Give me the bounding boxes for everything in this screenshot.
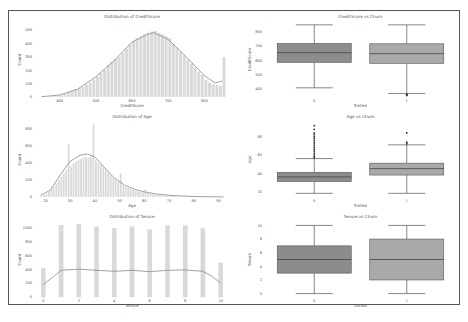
histogram-bar <box>139 36 142 97</box>
y-tick-label: 200 <box>25 69 33 73</box>
x-tick-label: 1 <box>406 199 408 203</box>
x-tick-label: 20 <box>43 199 48 203</box>
histogram-bar <box>181 196 183 197</box>
x-tick-label: 50 <box>117 199 122 203</box>
outlier-point <box>313 134 315 136</box>
histogram-bar <box>148 230 152 297</box>
histogram-bar <box>59 225 63 297</box>
histogram-bar <box>121 53 124 97</box>
histogram-bar <box>136 38 139 97</box>
histogram-bar <box>94 227 98 297</box>
box-iqr <box>370 163 444 175</box>
histogram-bar <box>85 84 88 97</box>
histogram-bar <box>117 182 119 197</box>
histogram-bar <box>68 144 70 197</box>
histogram-bar <box>154 194 156 197</box>
histogram-bar <box>74 90 77 97</box>
histogram-bar <box>197 72 200 97</box>
y-tick-label: 200 <box>25 178 33 182</box>
histogram-bar <box>127 188 129 197</box>
histogram-bar <box>52 96 55 97</box>
histogram-bar <box>45 194 47 197</box>
histogram-bar <box>85 157 87 197</box>
histogram-bar <box>150 31 153 97</box>
histogram-bar <box>144 189 146 197</box>
histogram-bar <box>75 161 77 197</box>
x-tick-label: 600 <box>129 99 137 103</box>
histogram-bar <box>167 195 169 197</box>
histogram-bar <box>81 87 84 97</box>
y-tick-label: 80 <box>257 135 262 139</box>
histogram-bar <box>125 49 128 97</box>
y-tick-label: 600 <box>255 59 263 63</box>
histogram-bar <box>219 263 223 297</box>
histogram-bar <box>110 175 112 197</box>
x-axis-label: Exited <box>354 203 367 208</box>
histogram-bar <box>73 163 75 197</box>
y-tick-label: 400 <box>25 268 33 272</box>
y-axis-label: Count <box>17 253 22 265</box>
histogram-bar <box>89 82 92 97</box>
histogram-bar <box>83 158 85 197</box>
x-axis-label: Exited <box>354 103 367 108</box>
histogram-bar <box>105 170 107 197</box>
figure: Distribution of CreditScoreCreditScoreCo… <box>0 0 468 322</box>
histogram-bar <box>48 192 50 197</box>
outlier-point <box>313 136 315 138</box>
y-tick-label: 800 <box>25 127 33 131</box>
chart-title: Distribution of Tenure <box>109 214 154 219</box>
histogram-bar <box>157 195 159 197</box>
histogram-bar <box>212 84 215 97</box>
histogram-bar <box>164 195 166 197</box>
outlier-point <box>406 93 408 95</box>
histogram-bar <box>58 180 60 197</box>
histogram-bar <box>107 172 109 197</box>
outlier-point <box>313 139 315 141</box>
histogram-bar <box>168 38 171 97</box>
histogram-bar <box>201 75 204 97</box>
histogram-bar <box>41 268 45 297</box>
outlier-point <box>313 145 315 147</box>
histogram-bar <box>186 60 189 98</box>
histogram-bar <box>174 196 176 197</box>
outlier-point <box>313 149 315 151</box>
histogram-bar <box>147 193 149 197</box>
histogram-bar <box>92 80 95 97</box>
histogram-bar <box>60 95 63 97</box>
histogram-bar <box>103 70 106 97</box>
chart-title: Age vs Churn <box>347 114 375 119</box>
x-tick-label: 90 <box>216 199 221 203</box>
outlier-point <box>313 143 315 145</box>
y-tick-label: 60 <box>257 153 262 157</box>
outlier-point <box>313 125 315 127</box>
x-tick-label: 700 <box>165 99 173 103</box>
histogram-bar <box>102 167 104 197</box>
outlier-point <box>313 152 315 154</box>
histogram-bar <box>63 94 66 97</box>
histogram-bar <box>162 195 164 197</box>
histogram-bar <box>110 62 113 97</box>
histogram-bar <box>154 31 157 97</box>
x-tick-label: 2 <box>78 299 80 303</box>
histogram-bar <box>63 173 65 197</box>
histogram-bar <box>80 159 82 197</box>
histogram-bar <box>56 96 59 97</box>
chart-title: Tenure vs Churn <box>343 214 378 219</box>
histogram-bar <box>115 180 117 197</box>
histogram-bar <box>60 177 62 197</box>
y-tick-label: 10 <box>257 224 262 228</box>
histogram-bar <box>92 125 94 197</box>
histogram-bar <box>161 34 164 97</box>
chart-title: CreditScore vs Churn <box>338 14 383 19</box>
y-axis-label: Count <box>17 153 22 165</box>
histogram-bar <box>78 160 80 198</box>
histogram-bar <box>87 158 89 197</box>
histogram-bar <box>95 160 97 197</box>
y-tick-label: 500 <box>25 28 33 32</box>
y-axis-label: CreditScore <box>247 47 252 71</box>
histogram-bar <box>146 33 149 97</box>
histogram-bar <box>55 183 57 197</box>
histogram-bar <box>99 73 102 97</box>
histogram-bar <box>157 33 160 97</box>
histogram-bar <box>165 226 169 297</box>
